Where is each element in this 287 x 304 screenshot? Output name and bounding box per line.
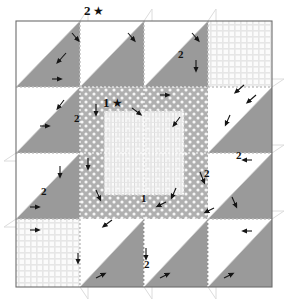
quilt-block-diagram: 2 ★ 1 ★ 1 2 2 2 2 2 2 (0, 0, 287, 304)
quilt-diagram-canvas: 2 ★ 1 ★ 1 2 2 2 2 2 2 (0, 0, 287, 304)
label-right-upper: 2 (236, 149, 242, 161)
label-center-star-number: 1 (103, 95, 110, 110)
label-inner-one: 1 (141, 192, 147, 204)
unit-r4c1-grid-square (16, 219, 80, 287)
label-right-mid: 2 (204, 167, 210, 179)
unit-r1c4-grid-square (208, 21, 272, 87)
label-top-star-number: 2 (84, 3, 91, 18)
label-left-upper: 2 (74, 112, 80, 124)
label-top-right: 2 (178, 48, 184, 60)
label-left-lower: 2 (41, 185, 47, 197)
star-icon-top: ★ (93, 4, 104, 18)
star-icon-center: ★ (112, 96, 123, 110)
label-bottom-mid: 2 (144, 258, 150, 270)
